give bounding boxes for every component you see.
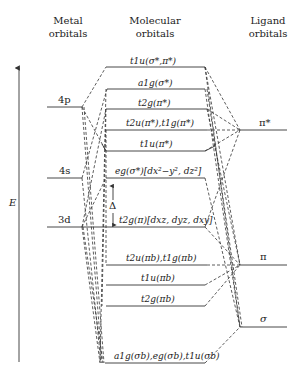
- mo-label-t2g-nonbonding: t2g(π)[dxz, dyz, dxy]: [119, 215, 213, 225]
- ligand-level-pi: π: [260, 252, 267, 262]
- mo-label-t1u-antibonding: t1u(σ*,π*): [130, 56, 176, 66]
- mo-label-t2g-bonding: t2g(πb): [141, 294, 175, 304]
- mo-label-eg-sigma-star: eg(σ*)[dx²−y², dz²]: [115, 166, 201, 176]
- metal-level-4s: 4s: [59, 166, 71, 176]
- ligand-level-pi-star: π*: [259, 118, 271, 128]
- mo-label-t2u-t1g-bonding: t2u(πb),t1g(πb): [126, 253, 197, 263]
- mo-label-a1g-antibonding: a1g(σ*): [138, 78, 173, 88]
- mo-label-t2u-t1g-pi-star: t2u(π*),t1g(π*): [126, 118, 194, 128]
- energy-axis-label: E: [9, 198, 16, 208]
- mo-label-t2g-pi-star: t2g(π*): [138, 98, 171, 108]
- ligand-level-sigma: σ: [260, 314, 267, 324]
- metal-level-4p: 4p: [58, 95, 71, 105]
- mo-label-sigma-bonding: a1g(σb),eg(σb),t1u(σb): [114, 351, 220, 361]
- metal-level-3d: 3d: [58, 215, 71, 225]
- delta-label: Δ: [109, 201, 116, 211]
- mo-label-t1u-bonding: t1u(πb): [141, 273, 175, 283]
- mo-label-t1u-pi-star: t1u(π*): [140, 139, 173, 149]
